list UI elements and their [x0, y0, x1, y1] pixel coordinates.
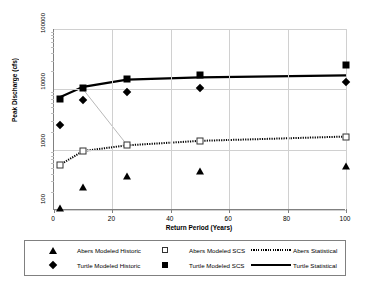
chart-legend: Abers Modeled HistoricAbers Modeled SCSA…	[24, 240, 346, 276]
y-minor-tick	[51, 71, 54, 72]
y-minor-tick	[51, 35, 54, 36]
data-point-marker	[123, 173, 131, 180]
data-point-marker	[80, 148, 87, 155]
y-minor-tick	[51, 163, 54, 164]
x-tick-label: 0	[51, 215, 55, 222]
y-minor-tick	[51, 174, 54, 175]
y-gridline	[54, 150, 346, 151]
data-point-marker	[124, 75, 131, 82]
thin-gray-connector-line	[80, 86, 127, 145]
x-gridline	[171, 29, 172, 210]
x-axis-title: Return Period (Years)	[53, 224, 345, 231]
y-axis-title: Peak Discharge (cfs)	[8, 0, 20, 181]
legend-item[interactable]: Turtle Modeled Historic	[31, 259, 140, 271]
legend-row: Turtle Modeled HistoricTurtle Modeled SC…	[25, 259, 347, 273]
y-minor-tick	[51, 47, 54, 48]
legend-label: Abers Modeled SCS	[187, 247, 245, 254]
series-lines-layer	[54, 29, 346, 210]
legend-label: Turtle Modeled SCS	[187, 262, 244, 269]
y-minor-tick	[51, 53, 54, 54]
x-tick-mark	[112, 209, 113, 213]
y-minor-tick	[51, 32, 54, 33]
filled-diamond-icon	[31, 259, 75, 271]
x-gridline	[288, 29, 289, 210]
filled-triangle-icon	[31, 244, 75, 256]
y-minor-tick	[51, 42, 54, 43]
plot-area	[53, 29, 345, 210]
data-point-marker	[196, 168, 204, 175]
y-minor-tick	[51, 38, 54, 39]
legend-label: Abers Modeled Historic	[75, 247, 141, 254]
y-minor-tick	[51, 107, 54, 108]
y-minor-tick	[51, 132, 54, 133]
y-minor-tick	[51, 159, 54, 160]
y-minor-tick	[51, 192, 54, 193]
x-gridline	[346, 29, 347, 210]
x-tick-mark	[288, 209, 289, 213]
y-gridline	[54, 210, 346, 211]
legend-label: Turtle Statistical	[291, 262, 337, 269]
legend-label: Abers Statistical	[291, 247, 337, 254]
y-minor-tick	[51, 121, 54, 122]
x-tick-label: 80	[283, 215, 290, 222]
data-point-marker	[343, 62, 350, 69]
chart-figure: Peak Discharge (cfs) Return Period (Year…	[0, 0, 370, 287]
data-point-marker	[56, 204, 64, 211]
y-minor-tick	[51, 181, 54, 182]
x-tick-mark	[229, 209, 230, 213]
data-point-marker	[79, 184, 87, 191]
x-tick-label: 60	[225, 215, 232, 222]
legend-label: Turtle Modeled Historic	[75, 262, 140, 269]
data-point-marker	[342, 163, 350, 170]
data-point-marker	[56, 96, 63, 103]
y-minor-tick	[51, 61, 54, 62]
x-gridline	[229, 29, 230, 210]
filled-square-icon	[143, 259, 187, 271]
legend-item[interactable]: Abers Statistical	[247, 244, 337, 256]
legend-item[interactable]: Abers Modeled SCS	[143, 244, 245, 256]
x-tick-mark	[346, 209, 347, 213]
x-tick-label: 100	[340, 215, 351, 222]
legend-item[interactable]: Turtle Statistical	[247, 259, 337, 271]
y-minor-tick	[51, 152, 54, 153]
data-point-marker	[80, 85, 87, 92]
open-square-icon	[143, 244, 187, 256]
data-point-marker	[197, 71, 204, 78]
y-minor-tick	[51, 156, 54, 157]
data-point-marker	[124, 142, 131, 149]
solid-line-icon	[247, 259, 291, 271]
data-point-marker	[197, 137, 204, 144]
legend-item[interactable]: Turtle Modeled SCS	[143, 259, 244, 271]
data-point-marker	[56, 161, 63, 168]
y-minor-tick	[51, 92, 54, 93]
x-tick-mark	[171, 209, 172, 213]
legend-item[interactable]: Abers Modeled Historic	[31, 244, 141, 256]
data-point-marker	[343, 133, 350, 140]
y-minor-tick	[51, 168, 54, 169]
x-gridline	[112, 29, 113, 210]
y-minor-tick	[51, 95, 54, 96]
dotted-line-icon	[247, 244, 291, 256]
y-minor-tick	[51, 113, 54, 114]
y-minor-tick	[51, 99, 54, 100]
x-tick-label: 20	[108, 215, 115, 222]
x-tick-label: 40	[166, 215, 173, 222]
legend-row: Abers Modeled HistoricAbers Modeled SCSA…	[25, 244, 347, 258]
y-minor-tick	[51, 103, 54, 104]
y-gridline	[54, 29, 346, 30]
